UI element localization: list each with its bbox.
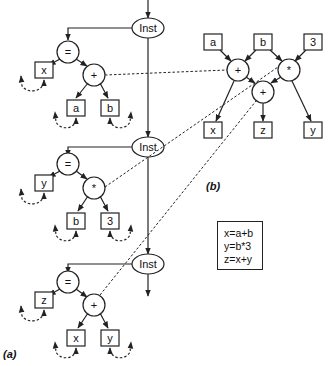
instruction-tree-1-nodes: = x + a b bbox=[35, 41, 119, 116]
dag-op-label: + bbox=[235, 64, 241, 76]
operand-right-label: y bbox=[107, 332, 113, 344]
dag-input-label: a bbox=[210, 36, 217, 48]
dag-op-label: * bbox=[287, 64, 292, 76]
diagram-canvas: = x + a b = y * b 3 bbox=[0, 0, 331, 366]
dag-input-label: 3 bbox=[310, 36, 316, 48]
assign-op-label: = bbox=[65, 46, 71, 58]
op-label: + bbox=[91, 299, 97, 311]
dag-output-label: z bbox=[260, 124, 266, 136]
part-b-caption: (b) bbox=[206, 180, 220, 192]
target-label: x bbox=[41, 64, 47, 76]
op-label: + bbox=[91, 69, 97, 81]
assign-op-label: = bbox=[65, 276, 71, 288]
op-label: * bbox=[92, 182, 97, 194]
operand-left-label: x bbox=[73, 332, 79, 344]
assign-op-label: = bbox=[65, 158, 71, 170]
equations-box: x=a+b y=b*3 z=x+y bbox=[217, 221, 263, 270]
inst-label: Inst bbox=[139, 141, 157, 153]
part-a-caption: (a) bbox=[3, 348, 17, 360]
instruction-tree-2-nodes: = y * b 3 bbox=[35, 153, 119, 229]
dag-output-label: y bbox=[310, 124, 316, 136]
dag-nodes: a b 3 + * + x z y bbox=[204, 34, 322, 138]
target-label: z bbox=[41, 294, 47, 306]
equation-line: x=a+b bbox=[224, 227, 262, 240]
operand-left-label: a bbox=[73, 102, 80, 114]
equation-line: y=b*3 bbox=[224, 240, 262, 253]
dag-input-label: b bbox=[260, 36, 266, 48]
inst-label: Inst bbox=[139, 22, 157, 34]
operand-right-label: b bbox=[107, 102, 113, 114]
dag-output-label: x bbox=[210, 124, 216, 136]
equation-line: z=x+y bbox=[224, 253, 262, 266]
operand-right-label: 3 bbox=[107, 215, 113, 227]
inst-label: Inst bbox=[139, 258, 157, 270]
target-label: y bbox=[41, 177, 47, 189]
operand-left-label: b bbox=[73, 215, 79, 227]
dag-op-label: + bbox=[260, 86, 266, 98]
instruction-tree-3-nodes: = z + x y bbox=[35, 271, 119, 346]
